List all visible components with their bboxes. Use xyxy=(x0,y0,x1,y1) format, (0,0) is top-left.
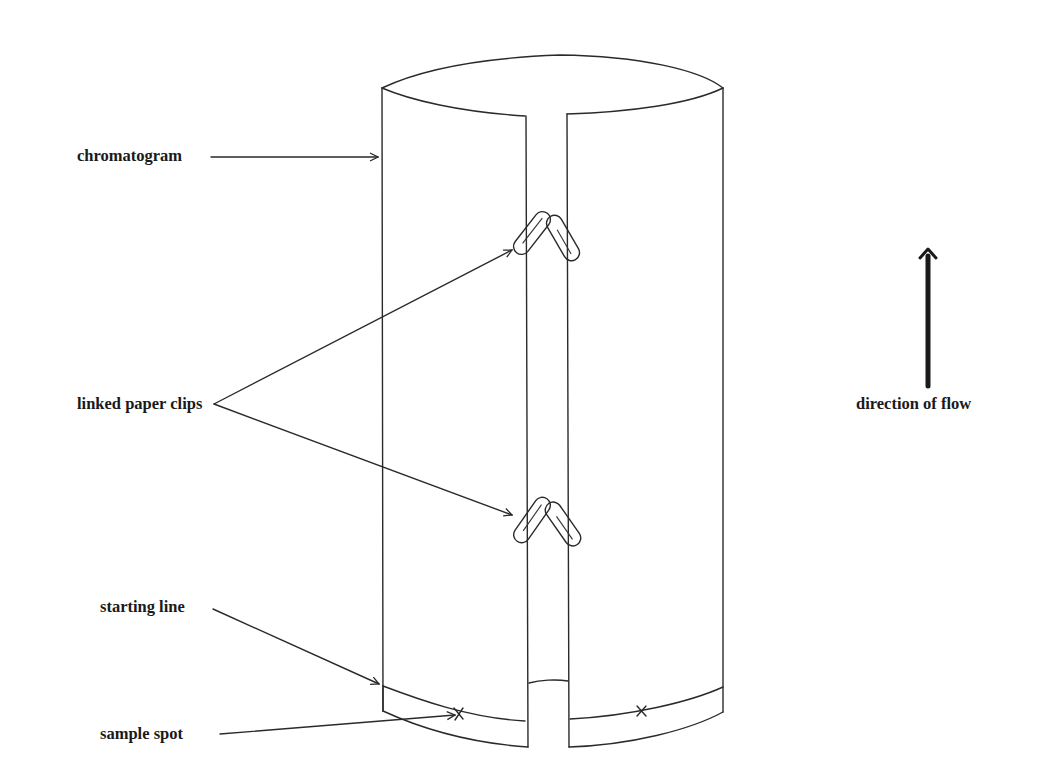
sample-spot-left xyxy=(454,708,463,720)
starting-line xyxy=(383,686,723,721)
gap-back-edge xyxy=(529,680,568,683)
leader-arrow-starting-line xyxy=(213,609,379,684)
label-starting-line: starting line xyxy=(100,597,185,616)
cylinder-top-front-right xyxy=(567,88,723,114)
cylinder-top-back-edge xyxy=(382,55,723,88)
gap-right-edge xyxy=(567,114,569,747)
label-sample-spot: sample spot xyxy=(100,724,183,743)
leader-arrow-sample-spot xyxy=(220,715,455,734)
starting-line-right xyxy=(570,687,723,719)
cylinder-top-front-left xyxy=(382,88,525,116)
chromatography-diagram: chromatogram linked paper clips starting… xyxy=(0,0,1056,776)
label-direction-of-flow: direction of flow xyxy=(856,394,971,413)
chromatogram-cylinder xyxy=(382,55,723,747)
cylinder-left-edge xyxy=(382,88,383,711)
paper-clip-upper xyxy=(510,208,582,263)
leader-arrow-clip-lower xyxy=(214,404,512,515)
flow-direction-arrow-icon xyxy=(920,249,936,386)
label-linked-paper-clips: linked paper clips xyxy=(77,394,203,413)
paper-clip-lower xyxy=(511,494,584,549)
label-chromatogram: chromatogram xyxy=(77,146,182,165)
leader-arrow-clip-upper xyxy=(214,250,512,404)
gap-left-edge xyxy=(526,116,528,747)
cylinder-bottom-left xyxy=(383,711,528,747)
